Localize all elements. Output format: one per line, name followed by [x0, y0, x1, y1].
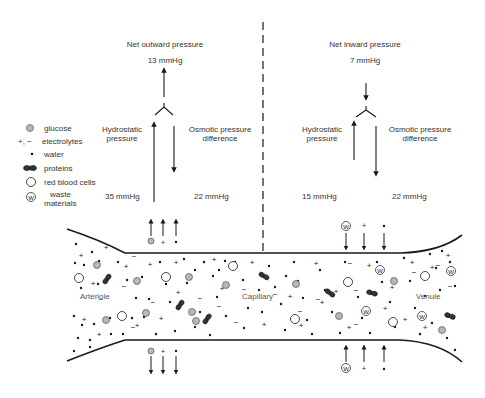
- svg-text:W: W: [377, 268, 383, 274]
- svg-text:+: +: [314, 259, 319, 268]
- legend-water: water: [44, 150, 64, 159]
- svg-text:+: +: [82, 315, 87, 324]
- svg-text:+: +: [362, 222, 366, 229]
- svg-text:−: −: [448, 282, 453, 291]
- svg-text:W: W: [28, 195, 34, 201]
- svg-text:+: +: [250, 258, 255, 267]
- right-net-title: Net inward pressure: [320, 40, 410, 49]
- left-pressure-arrows: [154, 70, 174, 202]
- legend-proteins: proteins: [44, 164, 72, 173]
- svg-text:−: −: [122, 282, 127, 291]
- svg-text:W: W: [343, 224, 349, 230]
- svg-text:−: −: [273, 290, 278, 299]
- left-osmotic-label: Osmotic pressure difference: [180, 125, 260, 143]
- svg-text:+: +: [161, 348, 165, 355]
- svg-text:+: +: [79, 251, 84, 260]
- svg-text:+: +: [299, 321, 304, 330]
- svg-text:+: +: [362, 365, 366, 372]
- svg-text:+: +: [174, 258, 179, 267]
- svg-text:−: −: [354, 320, 359, 329]
- svg-text:−: −: [412, 268, 417, 277]
- svg-text:+: +: [320, 298, 325, 307]
- svg-text:W: W: [343, 366, 349, 372]
- right-net-value: 7 mmHg: [340, 56, 390, 65]
- inward-flow-bottom: W +: [342, 347, 386, 373]
- legend-electrolytes: +, −electrolytes: [18, 137, 82, 146]
- svg-text:+: +: [383, 304, 388, 313]
- venule-label: Venule: [416, 292, 440, 301]
- electrolyte-symbol: +, −: [18, 137, 42, 146]
- svg-text:−: −: [132, 252, 137, 261]
- svg-text:+: +: [262, 320, 267, 329]
- svg-text:+: +: [446, 251, 451, 260]
- svg-text:+: +: [148, 260, 153, 269]
- svg-text:+: +: [124, 262, 129, 271]
- svg-text:+: +: [367, 261, 372, 270]
- water-icon: [31, 153, 34, 156]
- right-osmotic-label: Osmotic pressure difference: [380, 125, 460, 143]
- left-osmotic-value: 22 mmHg: [194, 192, 229, 201]
- svg-text:+: +: [347, 323, 352, 332]
- svg-text:−: −: [131, 323, 136, 332]
- svg-text:−: −: [234, 318, 239, 327]
- left-net-title: Net outward pressure: [120, 40, 210, 49]
- left-hydrostatic-label: Hydrostatic pressure: [96, 125, 148, 143]
- svg-text:−: −: [217, 302, 222, 311]
- svg-text:+: +: [91, 279, 96, 288]
- outward-flow-top: +: [148, 221, 177, 246]
- legend-glucose: glucose: [44, 124, 72, 133]
- svg-text:+: +: [430, 263, 435, 272]
- svg-text:+: +: [159, 314, 164, 323]
- svg-text:+: +: [135, 321, 140, 330]
- right-hydrostatic-value: 15 mmHg: [302, 192, 337, 201]
- outward-flow-bottom: +: [148, 348, 177, 372]
- svg-text:+: +: [212, 255, 217, 264]
- inward-flow-top: W +: [342, 222, 386, 249]
- svg-text:+: +: [161, 239, 165, 246]
- legend-waste: waste materials: [44, 190, 76, 208]
- svg-text:−: −: [348, 259, 353, 268]
- right-hydrostatic-label: Hydrostatic pressure: [296, 125, 348, 143]
- svg-text:−: −: [198, 294, 203, 303]
- svg-text:W: W: [448, 269, 454, 275]
- svg-text:+: +: [97, 330, 102, 339]
- right-pressure-arrows: [354, 83, 376, 174]
- electrolytes: +++ +++ +++ +++ +++ +++ +++ +++ +++ +++ …: [79, 243, 455, 339]
- glucose-icon: [27, 125, 34, 132]
- arteriole-label: Arteriole: [80, 292, 110, 301]
- svg-text:W: W: [363, 309, 369, 315]
- legend-red-blood-cells: red blood cells: [44, 178, 96, 187]
- svg-text:+: +: [288, 292, 293, 301]
- svg-text:+: +: [423, 323, 428, 332]
- svg-text:−: −: [436, 261, 441, 270]
- svg-text:W: W: [419, 314, 425, 320]
- left-net-value: 13 mmHg: [140, 56, 190, 65]
- svg-text:+: +: [403, 315, 408, 324]
- svg-text:−: −: [298, 307, 303, 316]
- capillary-label: Capillary: [242, 292, 273, 301]
- protein-icon: [24, 165, 37, 170]
- right-osmotic-value: 22 mmHg: [392, 192, 427, 201]
- svg-text:+: +: [176, 288, 181, 297]
- svg-text:+: +: [410, 258, 415, 267]
- svg-text:−: −: [316, 295, 321, 304]
- svg-text:+: +: [104, 243, 109, 252]
- left-hydrostatic-value: 35 mmHg: [105, 192, 140, 201]
- svg-text:−: −: [354, 286, 359, 295]
- svg-text:−: −: [151, 298, 156, 307]
- red-blood-cell-icon: [27, 178, 36, 187]
